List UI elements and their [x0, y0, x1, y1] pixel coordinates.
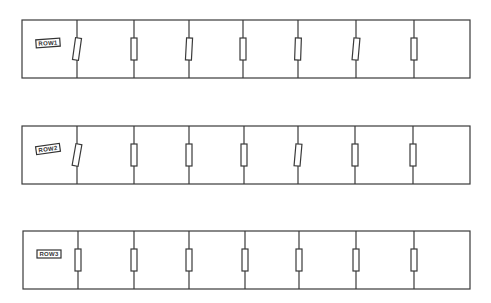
resistor-icon: [72, 144, 82, 167]
resistor-icon: [131, 249, 137, 271]
resistor-icon: [72, 38, 81, 61]
resistor-icon: [295, 38, 302, 60]
resistor-diagram: ROW1 ROW2 ROW3: [0, 0, 491, 303]
row3-label-text: ROW3: [39, 251, 59, 257]
resistor-icon: [186, 144, 192, 166]
resistor-icon: [185, 38, 192, 60]
resistor-icon: [75, 249, 81, 271]
resistor-icon: [131, 38, 137, 60]
resistor-icon: [241, 144, 247, 166]
row-3: [23, 231, 470, 289]
resistor-icon: [242, 249, 248, 271]
rows-group: [22, 20, 470, 289]
resistor-icon: [352, 144, 358, 166]
resistor-icon: [131, 144, 137, 166]
resistor-icon: [296, 249, 302, 271]
resistor-icon: [411, 249, 417, 271]
resistor-icon: [240, 38, 246, 60]
resistor-icon: [186, 249, 192, 271]
row-1: [22, 20, 470, 78]
resistor-icon: [411, 38, 417, 60]
row-2: [22, 126, 470, 184]
resistor-icon: [410, 144, 416, 166]
resistor-icon: [353, 249, 359, 271]
resistor-icon: [352, 38, 360, 60]
resistor-icon: [294, 144, 302, 166]
